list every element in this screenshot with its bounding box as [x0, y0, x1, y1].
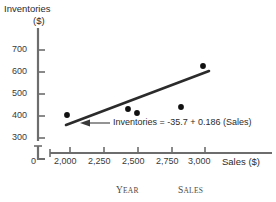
x-tick-label-2250: 2,250	[88, 157, 111, 166]
footer-column-sales: SALES	[178, 186, 203, 196]
y-tick-label-600: 600	[12, 67, 27, 76]
chart-canvas	[0, 0, 276, 202]
annotation-arrow-icon	[80, 120, 110, 127]
x-axis-title: Sales ($)	[222, 157, 260, 167]
y-axis-title-line1: Inventories	[4, 4, 50, 14]
x-tick-label-3000: 3,000	[188, 157, 211, 166]
footer-column-year: YEAR	[116, 186, 139, 196]
y-tick-label-700: 700	[12, 45, 27, 54]
data-point	[134, 110, 140, 116]
y-tick-label-400: 400	[12, 111, 27, 120]
y-axis-title-line2: ($)	[33, 16, 45, 26]
data-point	[200, 63, 206, 69]
origin-label: 0	[31, 157, 36, 166]
y-tick-label-300: 300	[12, 133, 27, 142]
footer-sales-rest: ALES	[183, 186, 203, 195]
data-point	[125, 106, 131, 112]
data-point	[64, 112, 70, 118]
footer-year-rest: EAR	[123, 186, 139, 195]
x-tick-label-2000: 2,000	[54, 157, 77, 166]
footer-year-initial: Y	[116, 185, 123, 195]
x-tick-label-2750: 2,750	[156, 157, 179, 166]
x-tick-label-2500: 2,500	[122, 157, 145, 166]
y-axis-break-icon	[38, 146, 45, 159]
scatter-chart: Inventories ($) Sales ($) 700 600 500 40…	[0, 0, 276, 202]
data-point	[178, 104, 184, 110]
y-tick-label-500: 500	[12, 89, 27, 98]
regression-equation-label: Inventories = -35.7 + 0.186 (Sales)	[113, 118, 252, 127]
